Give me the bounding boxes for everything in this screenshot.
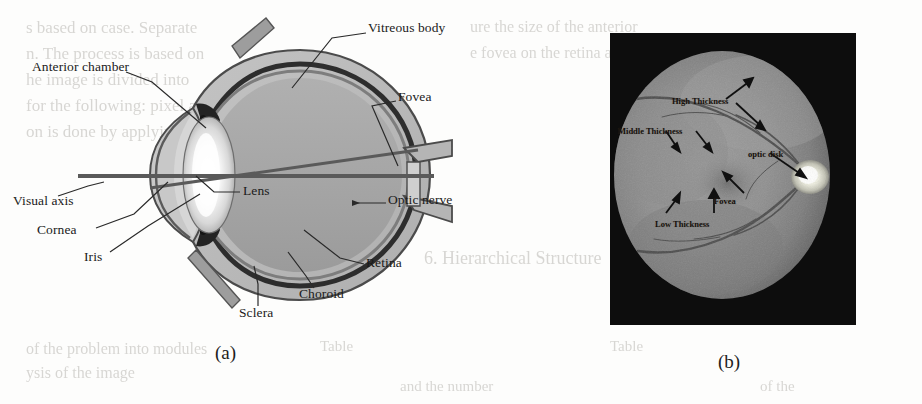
retinal-fundus-illustration — [610, 33, 856, 325]
fundus-label-optic-disk: optic disk — [748, 149, 783, 159]
label-cornea: Cornea — [37, 222, 77, 238]
bleed-text-line: of the — [760, 378, 795, 395]
label-optic-nerve: Optic nerve — [388, 192, 452, 208]
label-fovea: Fovea — [398, 89, 432, 105]
panel-a-eye-diagram: Vitreous body Anterior chamber Fovea Len… — [0, 0, 600, 404]
label-sclera: Sclera — [239, 305, 273, 321]
fundus-label-high-thickness: High Thickness — [672, 96, 728, 106]
panel-b-caption: (b) — [718, 351, 740, 373]
fundus-label-middle-thickness: Middle Thickness — [618, 126, 682, 136]
fundus-image-frame: High Thickness Middle Thickness optic di… — [610, 33, 856, 325]
label-lens: Lens — [243, 183, 270, 199]
label-vitreous-body: Vitreous body — [368, 20, 445, 36]
fundus-label-fovea: Fovea — [714, 196, 736, 206]
panel-b-fundus-photo: High Thickness Middle Thickness optic di… — [610, 33, 856, 325]
figure-container: s based on case. Separaten. The process … — [0, 0, 922, 404]
fundus-label-low-thickness: Low Thickness — [655, 219, 709, 229]
label-iris: Iris — [84, 249, 102, 265]
panel-a-caption: (a) — [215, 342, 236, 364]
label-anterior-chamber: Anterior chamber — [32, 59, 129, 75]
label-retina: Retina — [366, 255, 402, 271]
label-choroid: Choroid — [299, 286, 344, 302]
bleed-text-line: Table — [610, 338, 643, 355]
label-visual-axis: Visual axis — [13, 193, 74, 209]
